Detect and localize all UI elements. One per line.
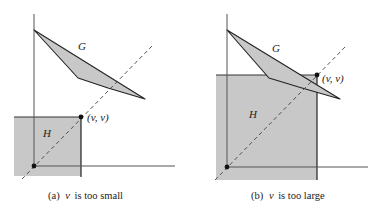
label-h: H bbox=[42, 127, 52, 139]
label-point-vv: (v, v) bbox=[87, 111, 109, 124]
label-g: G bbox=[78, 40, 86, 52]
label-g: G bbox=[272, 42, 280, 54]
region-g bbox=[34, 30, 145, 99]
label-h: H bbox=[248, 108, 258, 120]
origin-dot bbox=[32, 164, 37, 169]
label-point-vv: (v, v) bbox=[322, 72, 344, 85]
point-vv bbox=[315, 73, 320, 78]
region-h bbox=[14, 117, 81, 176]
panel-a: G H (v, v) (a) v is too small bbox=[14, 14, 175, 202]
panel-b: G H (v, v) (b) v is too large bbox=[215, 14, 368, 202]
diagram-canvas: G H (v, v) (a) v is too small G H (v, v)… bbox=[0, 0, 377, 217]
caption-b: (b) v is too large bbox=[251, 190, 325, 202]
point-vv bbox=[79, 115, 84, 120]
caption-a: (a) v is too small bbox=[48, 190, 123, 202]
origin-dot bbox=[225, 165, 230, 170]
